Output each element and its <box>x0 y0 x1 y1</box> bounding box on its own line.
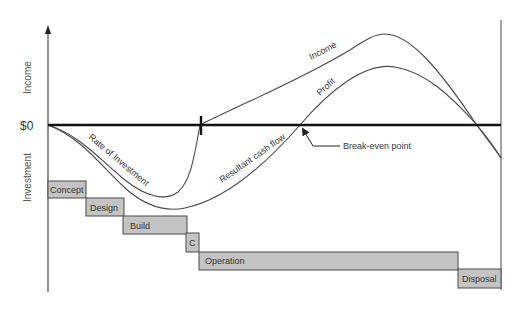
lifecycle-cost-diagram: Income Investment $0 Concept Design Buil… <box>0 0 529 310</box>
income-curve-label: Income <box>307 39 338 61</box>
svg-text:Concept: Concept <box>50 185 84 195</box>
svg-text:Build: Build <box>130 221 150 231</box>
svg-text:Design: Design <box>90 203 118 213</box>
svg-text:C: C <box>189 238 196 248</box>
phase-boxes: Concept Design Build C Operation Disposa… <box>48 181 501 288</box>
svg-text:Disposal: Disposal <box>462 274 497 284</box>
y-axis-income-label: Income <box>22 61 33 94</box>
break-even-label: Break-even point <box>343 141 412 151</box>
resultant-cash-flow-label: Resultant cash flow <box>217 131 287 184</box>
phase-disposal: Disposal <box>458 269 501 288</box>
svg-text:Operation: Operation <box>205 256 245 266</box>
zero-label: $0 <box>20 119 34 133</box>
rate-of-investment-label: Rate of Investment <box>87 132 152 189</box>
phase-build: Build <box>123 216 187 234</box>
break-even-arrow-icon <box>304 131 340 146</box>
profit-curve-label: Profit <box>315 76 338 98</box>
break-even-annotation: Break-even point <box>304 131 412 151</box>
phase-design: Design <box>86 198 124 216</box>
phase-operation: Operation <box>199 252 458 270</box>
phase-commission: C <box>186 233 199 252</box>
phase-concept: Concept <box>48 181 86 198</box>
income-curve <box>200 34 501 158</box>
y-axis-investment-label: Investment <box>22 153 33 202</box>
y-axis <box>45 25 51 292</box>
axis-arrow-icon <box>45 25 51 34</box>
